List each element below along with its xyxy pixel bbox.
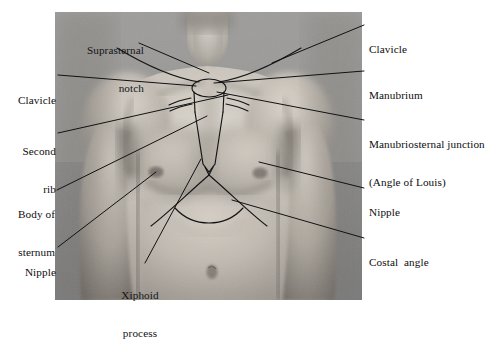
label-costal-angle-line1: Costal angle	[369, 256, 499, 269]
label-costal-angle: Costal angle	[369, 231, 499, 294]
label-nipple-left: Nipple	[0, 241, 56, 304]
label-manubriosternal-junction-line1: Manubriosternal junction	[369, 138, 504, 151]
label-nipple-right-line1: Nipple	[369, 206, 499, 219]
label-xiphoid-process-line1: Xiphoid	[100, 289, 180, 302]
label-suprasternal-notch-line1: Suprasternal	[44, 44, 144, 57]
label-xiphoid-process: Xiphoid process	[100, 264, 180, 343]
label-second-rib-line1: Second	[0, 145, 56, 158]
label-clavicle-left-line1: Clavicle	[0, 94, 56, 107]
label-body-of-sternum-line1: Body of	[0, 208, 55, 221]
label-suprasternal-notch: Suprasternal notch	[44, 19, 144, 120]
label-xiphoid-process-line2: process	[100, 327, 180, 340]
label-clavicle-right-line1: Clavicle	[369, 43, 499, 56]
label-nipple-left-line1: Nipple	[0, 266, 56, 279]
label-suprasternal-notch-line2: notch	[44, 82, 144, 95]
label-manubrium-line1: Manubrium	[369, 89, 499, 102]
